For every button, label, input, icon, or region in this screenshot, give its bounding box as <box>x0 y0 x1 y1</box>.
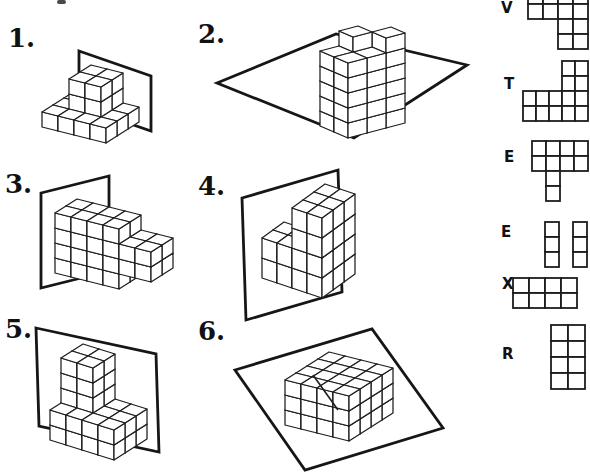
answer-letter-v: V <box>501 1 513 16</box>
figure-4 <box>242 170 355 320</box>
answer-letter-r: R <box>502 347 514 362</box>
answer-letter-t: T <box>504 77 514 92</box>
worksheet-page: 1. 2. 3. 4. 5. 6. V T E E X R <box>0 0 590 472</box>
answer-shape-3-e <box>532 141 588 201</box>
figure-5 <box>36 328 159 460</box>
problem-number-3: 3. <box>5 171 32 197</box>
answer-shape-4-e <box>545 222 587 267</box>
answer-shape-2-t <box>523 61 588 121</box>
answer-shape-5-x <box>513 278 577 308</box>
figure-6 <box>235 329 443 470</box>
figure-2 <box>217 26 467 138</box>
answer-letter-e2: E <box>501 225 511 240</box>
answer-shape-6-r <box>551 325 585 389</box>
page-edge-artifact <box>57 0 66 4</box>
problem-number-1: 1. <box>8 25 35 51</box>
answer-letter-e1: E <box>504 150 514 165</box>
figure-3 <box>41 176 173 289</box>
answer-shape-1-v <box>528 0 588 49</box>
problem-number-5: 5. <box>5 316 32 342</box>
answer-letter-x: X <box>502 277 514 292</box>
problem-number-6: 6. <box>198 318 225 344</box>
problem-number-4: 4. <box>198 173 225 199</box>
figure-1 <box>42 51 151 143</box>
problem-number-2: 2. <box>198 21 225 47</box>
